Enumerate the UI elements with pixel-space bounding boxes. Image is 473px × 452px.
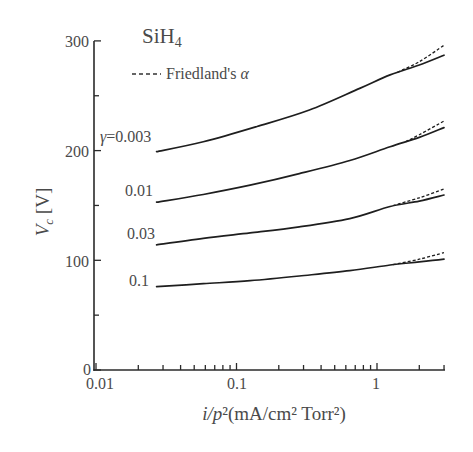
x-axis-title: i/p²(mA/cm² Torr²) [202, 403, 346, 425]
series-line--0.01-friedland-s [406, 121, 444, 142]
x-tick-label-0.1: 0.1 [227, 375, 247, 392]
chart-title: SiH4 [142, 24, 182, 50]
x-tick-label-0.01: 0.01 [86, 375, 114, 392]
annotation-gamma-0.1: 0.1 [129, 272, 149, 289]
chart-title-main: SiH [142, 24, 175, 48]
legend-label-text: Friedland's [166, 65, 240, 82]
legend-label: Friedland's α [166, 65, 249, 82]
annotation-gamma-0.03: 0.03 [127, 225, 155, 242]
series-line--0.03 [157, 195, 444, 245]
x-tick-labels: 0.01 0.1 1 [86, 375, 380, 392]
legend: Friedland's α [132, 65, 249, 82]
gamma-value-0.003: =0.003 [106, 128, 151, 145]
y-axis-title: Vc [V] [32, 188, 56, 237]
chart-title-subscript: 4 [175, 35, 182, 50]
annotation-gamma-0.01: 0.01 [125, 182, 153, 199]
chart: 300 200 100 0 0.01 0.1 1 i/p²(mA/cm² Tor… [0, 0, 473, 452]
series-line--0.01 [157, 128, 444, 203]
annotation-gamma-0.003: γ=0.003 [100, 128, 151, 146]
y-tick-labels: 300 200 100 0 [65, 33, 91, 378]
x-tick-label-1: 1 [372, 375, 380, 392]
x-axis-title-italic: i/p [202, 403, 222, 424]
legend-label-alpha: α [240, 65, 249, 82]
series-line--0.1 [157, 259, 444, 286]
y-tick-label-200: 200 [65, 143, 89, 160]
y-axis-title-unit: [V] [32, 188, 53, 219]
y-tick-label-100: 100 [65, 253, 89, 270]
x-axis-title-units: ²(mA/cm² Torr²) [222, 403, 346, 425]
y-tick-label-300: 300 [65, 33, 89, 50]
series-annotations: γ=0.003 0.01 0.03 0.1 [100, 128, 155, 289]
series-line--0.1-friedland-s [393, 253, 444, 265]
